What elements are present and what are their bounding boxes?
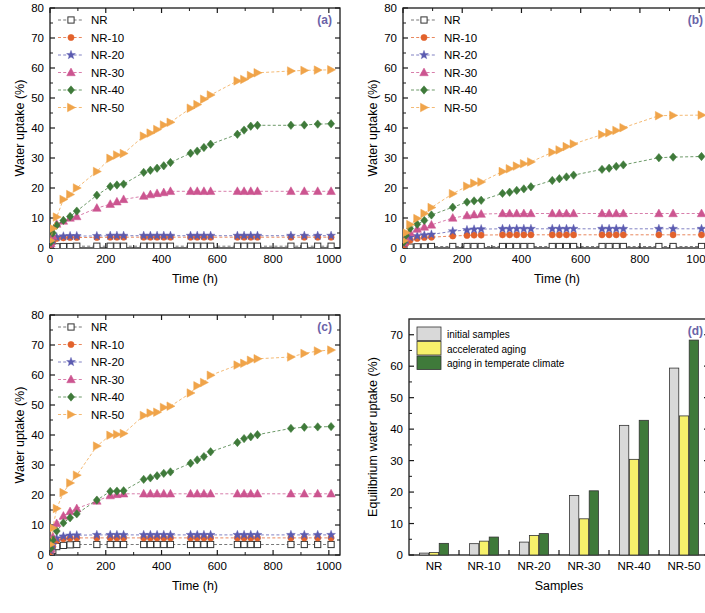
y-tick-label: 10 [31, 519, 44, 531]
x-tick-label: 1000 [316, 253, 342, 265]
y-tick-label: 40 [31, 122, 44, 134]
y-tick-label: 50 [384, 92, 397, 104]
x-tick-label: 800 [263, 253, 282, 265]
y-tick-label: 60 [390, 360, 403, 372]
bar [520, 542, 529, 555]
x-tick-label: 0 [47, 560, 53, 572]
legend-label-nr-50: NR-50 [91, 409, 124, 421]
y-axis-label: Water uptake (%) [366, 8, 380, 248]
x-tick-label: 600 [208, 560, 227, 572]
y-axis-label: Water uptake (%) [13, 315, 27, 555]
panel-label: (c) [317, 320, 332, 334]
legend-label: aging in temperate climate [447, 358, 565, 369]
panel-a-svg: 0200400600800100001020304050607080NRNR-1… [0, 0, 352, 306]
legend-label-nr-40: NR-40 [444, 84, 477, 96]
y-tick-label: 50 [390, 392, 403, 404]
legend-label-nr-20: NR-20 [444, 49, 477, 61]
panel-label: (a) [317, 13, 332, 27]
bar [479, 541, 488, 555]
series-nr [401, 243, 705, 250]
y-tick-label: 70 [384, 32, 397, 44]
y-tick-label: 40 [384, 122, 397, 134]
y-tick-label: 0 [38, 549, 44, 561]
bar [439, 543, 448, 555]
x-tick-label: 1000 [316, 560, 342, 572]
x-tick-label: NR-10 [467, 560, 500, 572]
panel-c-svg: 0200400600800100001020304050607080NRNR-1… [0, 307, 352, 613]
x-axis-label: Samples [409, 579, 705, 593]
y-axis-label: Equilibrium water uptake (%) [366, 319, 380, 555]
y-tick-label: 30 [31, 459, 44, 471]
panel-label: (d) [688, 324, 703, 338]
data-layer [46, 346, 335, 557]
x-tick-label: 0 [47, 253, 53, 265]
axis-ticks: 0200400600800100001020304050607080 [31, 2, 341, 265]
x-tick-label: 600 [571, 253, 590, 265]
panel-b-svg: 0200400600800100001020304050607080NRNR-1… [353, 0, 705, 306]
y-axis-label: Water uptake (%) [13, 8, 27, 248]
y-tick-label: 60 [31, 62, 44, 74]
legend-label-nr-40: NR-40 [91, 84, 124, 96]
bar [589, 491, 598, 555]
x-tick-label: 400 [512, 253, 531, 265]
data-layer [399, 111, 705, 251]
legend-label-nr-40: NR-40 [91, 391, 124, 403]
x-tick-label: 800 [630, 253, 649, 265]
x-tick-label: 0 [400, 253, 406, 265]
y-tick-label: 40 [31, 429, 44, 441]
panel-c: 0200400600800100001020304050607080NRNR-1… [0, 307, 352, 613]
y-tick-label: 20 [384, 182, 397, 194]
bar [420, 553, 429, 555]
plot-frame [50, 315, 340, 555]
bar [529, 535, 538, 555]
x-tick-label: NR [426, 560, 443, 572]
bar [579, 519, 588, 555]
figure-panel-grid: 0200400600800100001020304050607080NRNR-1… [0, 0, 705, 613]
bar [689, 340, 698, 555]
y-tick-label: 70 [31, 32, 44, 44]
legend: NRNR-10NR-20NR-30NR-40NR-50 [58, 321, 124, 421]
legend-label-nr-10: NR-10 [91, 32, 124, 44]
panel-label: (b) [688, 13, 703, 27]
y-tick-label: 0 [397, 549, 403, 561]
x-tick-label: NR-30 [567, 560, 600, 572]
y-tick-label: 20 [31, 182, 44, 194]
y-tick-label: 50 [31, 92, 44, 104]
y-tick-label: 10 [390, 518, 403, 530]
x-tick-label: 400 [152, 253, 171, 265]
legend-label-nr: NR [444, 14, 461, 26]
bar [489, 537, 498, 555]
legend-label-nr-10: NR-10 [444, 32, 477, 44]
y-tick-label: 20 [390, 486, 403, 498]
x-tick-label: 600 [208, 253, 227, 265]
y-tick-label: 10 [384, 212, 397, 224]
legend-label-nr-20: NR-20 [91, 356, 124, 368]
x-tick-label: 400 [152, 560, 171, 572]
axis-ticks: 0200400600800100001020304050607080 [31, 309, 341, 572]
bar [639, 420, 648, 555]
panel-b: 0200400600800100001020304050607080NRNR-1… [353, 0, 705, 306]
legend-label-nr-20: NR-20 [91, 49, 124, 61]
x-tick-label: 200 [453, 253, 472, 265]
legend-label-nr-50: NR-50 [91, 102, 124, 114]
legend: NRNR-10NR-20NR-30NR-40NR-50 [58, 14, 124, 114]
y-tick-label: 80 [31, 2, 44, 14]
bar [620, 425, 629, 555]
x-tick-label: NR-40 [617, 560, 650, 572]
x-axis-label: Time (h) [403, 272, 705, 286]
y-tick-label: 80 [384, 2, 397, 14]
y-tick-label: 0 [391, 242, 397, 254]
y-tick-label: 20 [31, 489, 44, 501]
legend-label-nr-50: NR-50 [444, 102, 477, 114]
bar [429, 552, 438, 555]
y-tick-label: 10 [31, 212, 44, 224]
x-tick-label: 800 [263, 560, 282, 572]
y-tick-label: 60 [384, 62, 397, 74]
y-tick-label: 70 [390, 329, 403, 341]
y-tick-label: 50 [31, 399, 44, 411]
bar [629, 459, 638, 555]
legend: initial samplesaccelerated agingaging in… [417, 327, 565, 370]
bar [670, 368, 679, 555]
legend-label-nr-10: NR-10 [91, 339, 124, 351]
legend: NRNR-10NR-20NR-30NR-40NR-50 [411, 14, 477, 114]
